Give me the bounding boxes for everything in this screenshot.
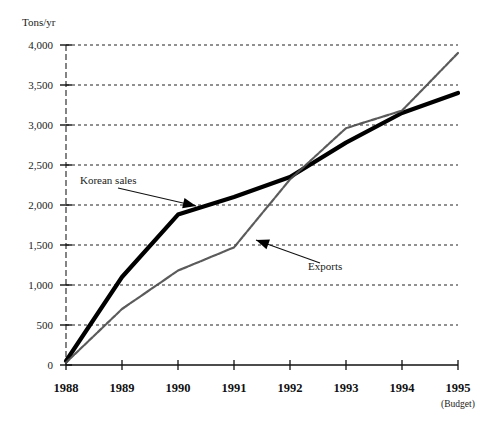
x-tick-sublabel: (Budget) <box>441 399 475 410</box>
y-tick-label: 4,000 <box>28 39 53 51</box>
x-tick-label: 1994 <box>390 381 416 395</box>
x-tick-label: 1988 <box>54 381 79 395</box>
y-tick-label: 1,000 <box>28 279 53 291</box>
y-tick-label: 2,500 <box>28 159 53 171</box>
x-tick-label: 1991 <box>222 381 247 395</box>
x-tick-label: 1992 <box>278 381 303 395</box>
y-tick-label: 500 <box>37 319 54 331</box>
x-tick-label: 1989 <box>110 381 135 395</box>
chart-background <box>0 0 499 428</box>
y-tick-label: 1,500 <box>28 239 53 251</box>
line-chart: 05001,0001,5002,0002,5003,0003,5004,000 … <box>0 0 499 428</box>
y-axis-unit-label: Tons/yr <box>22 16 56 28</box>
x-tick-label: 1990 <box>166 381 191 395</box>
y-tick-label: 3,000 <box>28 119 53 131</box>
y-tick-label: 3,500 <box>28 79 53 91</box>
annotation-label-exports: Exports <box>308 260 342 272</box>
x-tick-label: 1995 <box>446 381 471 395</box>
x-tick-label: 1993 <box>334 381 359 395</box>
y-tick-label: 2,000 <box>28 199 53 211</box>
y-tick-label: 0 <box>48 359 54 371</box>
annotation-label-korean-sales: Korean sales <box>80 174 137 186</box>
chart-container: 05001,0001,5002,0002,5003,0003,5004,000 … <box>0 0 499 428</box>
